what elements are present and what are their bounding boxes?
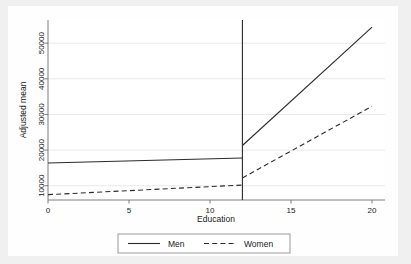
- y-axis-title: Adjusted mean: [18, 81, 28, 138]
- y-tick-label: 20000: [37, 138, 46, 161]
- x-tick-label: 5: [127, 206, 132, 215]
- chart-canvas: 1000020000300004000050000 05101520 Adjus…: [8, 6, 398, 256]
- y-tick-label: 50000: [37, 31, 46, 54]
- x-tick-label: 20: [368, 206, 377, 215]
- y-tick-label: 10000: [37, 174, 46, 197]
- chart-figure: 1000020000300004000050000 05101520 Adjus…: [8, 6, 398, 256]
- legend-label-women: Women: [244, 239, 273, 249]
- plot-area-background: [48, 20, 385, 200]
- y-tick-label: 30000: [37, 103, 46, 126]
- x-axis-title: Education: [197, 214, 235, 224]
- screenshot-root: 1000020000300004000050000 05101520 Adjus…: [0, 0, 411, 264]
- x-tick-label: 0: [46, 206, 51, 215]
- chart-legend: Men Women: [118, 234, 290, 253]
- legend-label-men: Men: [168, 239, 185, 249]
- x-tick-label: 15: [287, 206, 296, 215]
- y-tick-label: 40000: [37, 67, 46, 90]
